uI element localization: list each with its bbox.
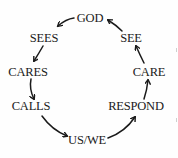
edge-artifact [176, 48, 177, 52]
node-see: SEE [120, 32, 142, 45]
node-god: GOD [77, 12, 103, 25]
arrow-care-to-see [136, 46, 144, 63]
arrow-respond-to-care [144, 80, 148, 99]
node-sees: SEES [30, 32, 58, 45]
arrow-cares-to-calls [30, 79, 34, 99]
edge-artifact [176, 118, 177, 122]
arrow-god-to-sees [58, 18, 74, 26]
cycle-diagram: GOD SEES CARES CALLS US/WE RESPOND CARE … [0, 0, 178, 158]
arrow-sees-to-cares [34, 46, 43, 61]
arrow-calls-to-uswe [42, 116, 67, 136]
node-care: CARE [133, 66, 166, 79]
arrow-uswe-to-respond [108, 117, 135, 138]
node-us-we: US/WE [68, 134, 106, 147]
node-calls: CALLS [12, 100, 51, 113]
node-respond: RESPOND [108, 100, 164, 113]
arrow-see-to-god [108, 20, 122, 31]
node-cares: CARES [8, 66, 47, 79]
